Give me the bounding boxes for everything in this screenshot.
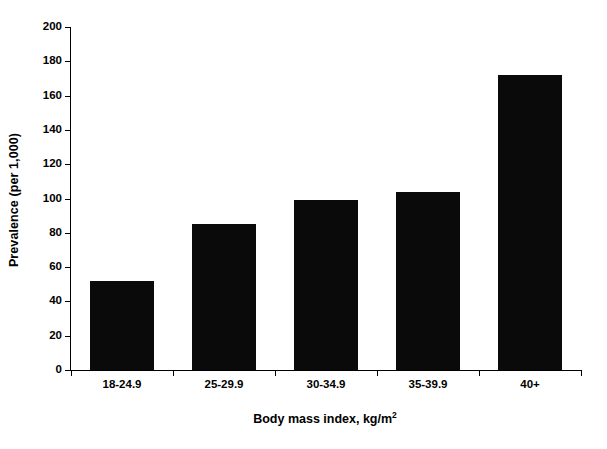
y-axis-tick — [65, 233, 71, 234]
x-axis-tick — [581, 370, 582, 376]
x-axis-title-superscript: 2 — [392, 410, 397, 420]
y-axis-tick — [65, 301, 71, 302]
y-axis-tick-label: 20 — [49, 330, 62, 342]
y-axis-tick — [65, 61, 71, 62]
x-axis-tick — [71, 370, 72, 376]
x-axis-title-text: Body mass index, kg/m — [253, 412, 392, 426]
y-axis-tick-label: 60 — [49, 261, 62, 273]
y-axis-tick — [65, 267, 71, 268]
y-axis-tick — [65, 199, 71, 200]
x-axis-category-label: 18-24.9 — [102, 379, 141, 391]
y-axis-tick-label: 180 — [43, 56, 62, 68]
x-axis-category-label: 30-34.9 — [306, 379, 345, 391]
y-axis-tick — [65, 96, 71, 97]
bar-chart-figure: Prevalence (per 1,000) 02040608010012014… — [0, 0, 607, 449]
x-axis-category-label: 35-39.9 — [408, 379, 447, 391]
bar — [396, 192, 460, 370]
bar — [498, 75, 562, 370]
y-axis-tick — [65, 130, 71, 131]
x-axis-category-label: 25-29.9 — [204, 379, 243, 391]
bar — [294, 200, 358, 370]
x-axis-tick — [377, 370, 378, 376]
y-axis-tick — [65, 336, 71, 337]
y-axis-tick-label: 200 — [43, 21, 62, 33]
y-axis-tick-label: 0 — [56, 364, 62, 376]
y-axis-tick-label: 40 — [49, 296, 62, 308]
bar — [90, 281, 154, 370]
y-axis-tick — [65, 27, 71, 28]
y-axis-tick-label: 80 — [49, 227, 62, 239]
bar — [192, 224, 256, 370]
y-axis-title: Prevalence (per 1,000) — [0, 0, 28, 400]
x-axis-tick — [479, 370, 480, 376]
x-axis-tick — [275, 370, 276, 376]
plot-area: 020406080100120140160180200 18-24.925-29… — [70, 27, 581, 371]
x-axis-tick — [173, 370, 174, 376]
y-axis-tick — [65, 164, 71, 165]
y-axis-tick-label: 120 — [43, 158, 62, 170]
x-axis-category-label: 40+ — [520, 379, 540, 391]
y-axis-tick-label: 160 — [43, 90, 62, 102]
y-axis-title-text: Prevalence (per 1,000) — [7, 133, 21, 267]
y-axis-tick-label: 100 — [43, 193, 62, 205]
x-axis-title: Body mass index, kg/m2 — [70, 412, 580, 426]
y-axis-tick-label: 140 — [43, 124, 62, 136]
